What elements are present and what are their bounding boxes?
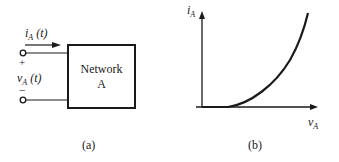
diagram-canvas [0,0,339,162]
iv-plot [196,11,318,110]
network-label-line1: Network [81,62,123,77]
iv-curve [202,13,308,107]
x-axis-arrow-icon [310,104,318,110]
bottom-terminal-icon [20,97,26,103]
y-axis-subscript: A [190,10,195,19]
network-label-line2: A [97,77,106,92]
current-arg: (t) [36,26,47,40]
plus-sign: + [19,56,25,68]
caption-b: (b) [248,138,262,153]
caption-a: (a) [82,138,95,153]
network-box-label: Network A [68,45,135,108]
y-axis-arrow-icon [199,11,205,19]
voltage-arg: (t) [30,71,41,85]
current-label: iA (t) [25,26,48,42]
x-axis-subscript: A [313,122,318,131]
y-axis-label: iA [187,3,195,19]
x-axis-label: vA [308,115,318,131]
current-arrow-head-icon [52,42,61,48]
top-terminal-icon [20,50,26,56]
minus-sign: − [19,83,26,98]
